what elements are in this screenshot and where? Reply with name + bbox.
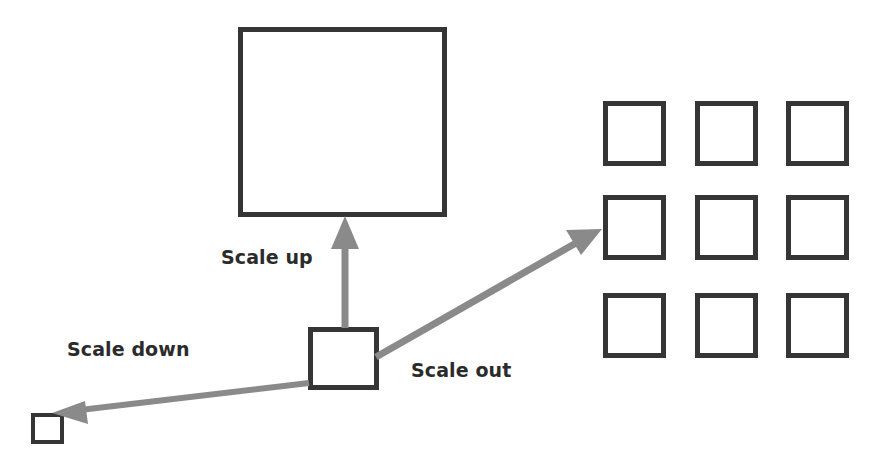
grid-cell [786,293,849,358]
scale-up-label: Scale up [221,246,313,268]
grid-cell [786,195,849,260]
scale-up-arrow [331,216,359,328]
large-square [238,27,447,217]
square-grid [603,101,856,366]
scale-down-label: Scale down [67,338,190,360]
grid-cell [695,101,758,166]
scale-down-arrow [52,383,309,424]
scale-out-label: Scale out [411,359,511,381]
grid-cell [695,293,758,358]
grid-cell [786,101,849,166]
diagram-canvas: Scale up Scale down Scale out [0,0,879,466]
center-square [308,327,379,390]
grid-cell [603,195,666,260]
grid-cell [603,101,666,166]
grid-cell [695,195,758,260]
scale-out-arrow [376,229,602,357]
grid-cell [603,293,666,358]
small-square [31,413,64,444]
